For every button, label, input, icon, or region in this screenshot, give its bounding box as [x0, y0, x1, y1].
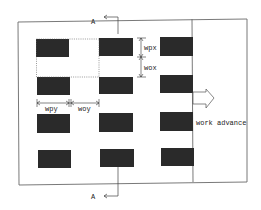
dim-label-wox: wox: [144, 64, 157, 72]
pillars: [36, 37, 194, 168]
pillar-r4c2: [100, 149, 134, 167]
pillar-r2c2: [99, 77, 133, 94]
pillar-r1c2: [99, 38, 133, 56]
section-label-top: A: [91, 18, 96, 26]
panel-diagram: wpx wox wpy woy work advance A A: [0, 0, 261, 210]
section-label-bottom: A: [91, 193, 96, 201]
pillar-r4c1: [38, 150, 71, 168]
work-advance-label: work advance: [196, 119, 246, 127]
pillar-r3c3: [160, 112, 193, 131]
section-marker-top: [104, 15, 118, 34]
dim-label-wpy: wpy: [45, 105, 58, 113]
pillar-r1c1: [36, 39, 69, 57]
pillar-r3c1: [37, 114, 70, 133]
pillar-r4c3: [161, 148, 194, 166]
section-marker-bottom: [104, 167, 118, 198]
dim-label-woy: woy: [78, 105, 91, 113]
pillar-r3c2: [99, 113, 133, 132]
pillar-r2c3: [160, 75, 193, 93]
pillar-r2c1: [37, 77, 70, 95]
pillar-r1c3: [160, 37, 193, 56]
work-advance-arrow-icon: [193, 89, 214, 108]
dim-label-wpx: wpx: [144, 44, 157, 52]
